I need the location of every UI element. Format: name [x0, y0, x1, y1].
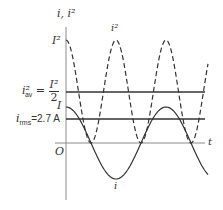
fraction-denominator: 2	[49, 92, 60, 104]
y-axis-label: i, i²	[57, 8, 75, 19]
I-squared-label: I²	[52, 35, 61, 46]
rms-subscript: rms	[20, 119, 32, 126]
av-subscript: av	[25, 91, 32, 98]
fraction: I² 2	[49, 79, 60, 103]
i-curve-label: i	[114, 181, 117, 191]
i-rms-equation: irms=2.7 A	[16, 113, 60, 126]
x-axis-label: t	[208, 137, 212, 147]
origin-label: O	[55, 146, 64, 157]
i-rms-value: =2.7 A	[31, 113, 60, 124]
i-squared-curve-label: i²	[111, 23, 118, 33]
i-av-squared-equation: i²av = I² 2	[22, 79, 59, 103]
equals-sign: =	[36, 84, 45, 97]
fraction-numerator: I²	[49, 79, 60, 92]
